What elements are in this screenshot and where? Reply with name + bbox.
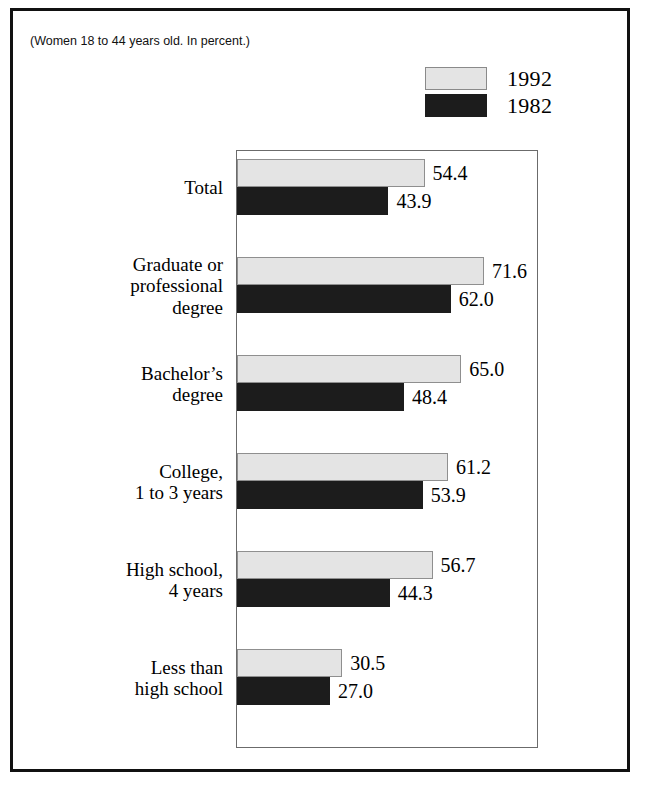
legend-label-1992: 1992 (507, 68, 552, 90)
bar-row-1982: 53.9 (237, 481, 633, 509)
bar-1982 (237, 481, 423, 509)
category-label: Graduate or professional degree (0, 253, 223, 318)
category-label: High school, 4 years (0, 558, 223, 601)
chart-subtitle: (Women 18 to 44 years old. In percent.) (30, 34, 250, 49)
bar-pair: 65.048.4 (237, 355, 633, 412)
bar-1982 (237, 677, 330, 705)
bar-1992 (237, 551, 433, 579)
bar-value-label: 43.9 (396, 191, 431, 211)
bar-value-label: 62.0 (459, 289, 494, 309)
bar-row-1992: 65.0 (237, 355, 633, 383)
bar-1982 (237, 579, 390, 607)
bar-1982 (237, 383, 404, 411)
bar-row-1982: 48.4 (237, 383, 633, 411)
bar-value-label: 44.3 (398, 583, 433, 603)
bar-group: High school, 4 years56.744.3 (13, 551, 633, 608)
bar-value-label: 54.4 (433, 163, 468, 183)
bar-row-1992: 71.6 (237, 257, 633, 285)
category-label: College, 1 to 3 years (0, 460, 223, 503)
legend-item-1982: 1982 (425, 92, 595, 119)
bar-group: Total54.443.9 (13, 159, 633, 216)
bar-row-1982: 43.9 (237, 187, 633, 215)
bar-row-1982: 27.0 (237, 677, 633, 705)
bar-1992 (237, 159, 425, 187)
bar-value-label: 56.7 (441, 555, 476, 575)
bar-row-1982: 44.3 (237, 579, 633, 607)
bar-value-label: 65.0 (469, 359, 504, 379)
bar-1992 (237, 453, 448, 481)
legend-swatch-1982 (425, 94, 487, 117)
bar-row-1992: 56.7 (237, 551, 633, 579)
legend-label-1982: 1982 (507, 95, 552, 117)
chart-legend: 1992 1982 (425, 65, 595, 119)
bar-value-label: 30.5 (350, 653, 385, 673)
bar-row-1992: 54.4 (237, 159, 633, 187)
bar-group: Graduate or professional degree71.662.0 (13, 257, 633, 314)
bar-row-1982: 62.0 (237, 285, 633, 313)
bar-pair: 54.443.9 (237, 159, 633, 216)
bar-1992 (237, 649, 342, 677)
bar-pair: 71.662.0 (237, 257, 633, 314)
category-label: Bachelor’s degree (0, 362, 223, 405)
bar-group: College, 1 to 3 years61.253.9 (13, 453, 633, 510)
bar-1982 (237, 285, 451, 313)
bar-1992 (237, 257, 484, 285)
category-label: Less than high school (0, 656, 223, 699)
chart-figure-frame: (Women 18 to 44 years old. In percent.) … (10, 8, 630, 772)
bar-value-label: 61.2 (456, 457, 491, 477)
bar-value-label: 53.9 (431, 485, 466, 505)
bar-value-label: 27.0 (338, 681, 373, 701)
bar-pair: 56.744.3 (237, 551, 633, 608)
bar-row-1992: 30.5 (237, 649, 633, 677)
legend-swatch-1992 (425, 67, 487, 90)
bar-group: Bachelor’s degree65.048.4 (13, 355, 633, 412)
bar-1982 (237, 187, 388, 215)
category-label: Total (0, 177, 223, 199)
bar-value-label: 48.4 (412, 387, 447, 407)
bar-pair: 61.253.9 (237, 453, 633, 510)
bar-1992 (237, 355, 461, 383)
bar-group: Less than high school30.527.0 (13, 649, 633, 706)
legend-item-1992: 1992 (425, 65, 595, 92)
bar-pair: 30.527.0 (237, 649, 633, 706)
bar-value-label: 71.6 (492, 261, 527, 281)
bar-row-1992: 61.2 (237, 453, 633, 481)
